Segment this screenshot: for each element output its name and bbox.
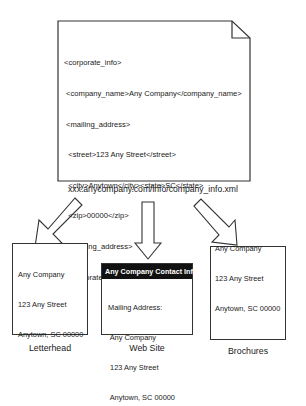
address-line: 123 Any Street: [108, 363, 192, 373]
address-line: Any Company: [18, 270, 87, 280]
address-line: Any Company: [108, 333, 192, 343]
xml-line: <company_name>Any Company</company_name>: [64, 89, 242, 99]
address-line: Anytown, SC 00000: [215, 304, 280, 314]
xml-url: xxx.anycompany.com/info/company_info.xml: [0, 184, 306, 194]
xml-line: <street>123 Any Street</street>: [64, 150, 242, 160]
brochures-caption: Brochures: [210, 346, 286, 356]
website-page: Any Company Contact Info Mailing Address…: [101, 263, 193, 335]
mailing-address-label: Mailing Address:: [108, 303, 192, 313]
website-caption: Web Site: [101, 343, 193, 353]
address-line: Anytown, SC 00000: [18, 330, 87, 340]
letterhead-caption: Letterhead: [12, 343, 88, 353]
address-line: 123 Any Street: [215, 274, 280, 284]
brochure-address: Any Company 123 Any Street Anytown, SC 0…: [215, 224, 280, 334]
website-header: Any Company Contact Info: [102, 264, 192, 279]
xml-line: <zip>00000</zip>: [64, 211, 242, 221]
address-line: Any Company: [215, 244, 280, 254]
xml-line: <mailing_address>: [64, 120, 242, 130]
address-line: Anytown, SC 00000: [108, 393, 192, 403]
letterhead-page: Any Company 123 Any Street Anytown, SC 0…: [12, 243, 88, 335]
xml-line: <corporate_info>: [64, 58, 242, 68]
address-line: 123 Any Street: [18, 300, 87, 310]
brochure-page: Any Company 123 Any Street Anytown, SC 0…: [210, 246, 286, 340]
